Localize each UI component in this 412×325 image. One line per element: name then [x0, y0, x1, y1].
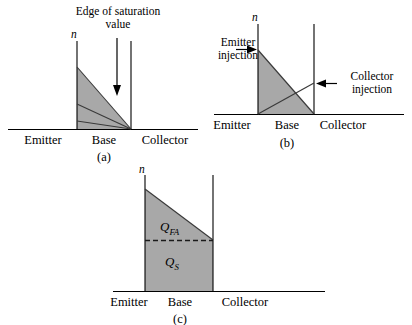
edge-of-saturation-line1: Edge of saturation — [76, 5, 160, 18]
region-label-base-b: Base — [275, 118, 299, 132]
region-label-emitter-b: Emitter — [213, 118, 251, 132]
region-label-collector-c: Collector — [222, 295, 269, 309]
collector-injection-line2: injection — [340, 83, 404, 96]
emitter-injection-line2: injection — [209, 49, 267, 62]
axis-symbol-n-b: n — [252, 11, 258, 24]
axis-symbol-n-c: n — [139, 163, 145, 176]
panel-a: Edge of saturation value n Emitter Base … — [0, 0, 206, 165]
charge-subscript-qfa: FA — [169, 227, 179, 237]
collector-injection-arrow-head — [316, 80, 326, 88]
collector-injection-callout: Collector injection — [340, 70, 404, 96]
collector-injection-line1: Collector — [340, 70, 404, 83]
region-label-collector-b: Collector — [320, 118, 367, 132]
saturation-arrow-head-a — [113, 85, 121, 96]
axis-symbol-n-a: n — [71, 28, 77, 41]
emitter-injection-callout: Emitter injection — [209, 36, 267, 62]
region-label-emitter-c: Emitter — [110, 295, 148, 309]
bjt-charge-profile-figure: Edge of saturation value n Emitter Base … — [0, 0, 412, 325]
charge-label-qfa: QFA — [160, 220, 179, 237]
charge-label-qs: QS — [165, 255, 179, 272]
panel-caption-b: (b) — [280, 136, 295, 150]
charge-symbol-qs: Q — [165, 254, 174, 269]
edge-of-saturation-callout: Edge of saturation value — [76, 5, 160, 31]
edge-of-saturation-line2: value — [76, 18, 160, 31]
emitter-injection-line1: Emitter — [209, 36, 267, 49]
panel-caption-c: (c) — [173, 312, 187, 325]
charge-symbol-qfa: Q — [160, 219, 169, 234]
panel-b: Emitter injection Collector injection n … — [206, 0, 412, 165]
panel-caption-a: (a) — [97, 150, 111, 164]
region-label-base-c: Base — [168, 295, 192, 309]
region-label-collector-a: Collector — [142, 133, 189, 147]
charge-subscript-qs: S — [174, 262, 178, 272]
region-label-emitter-a: Emitter — [24, 133, 62, 147]
region-label-base-a: Base — [92, 133, 116, 147]
panel-c: n QFA QS Emitter Base Collector (c) — [103, 165, 333, 325]
